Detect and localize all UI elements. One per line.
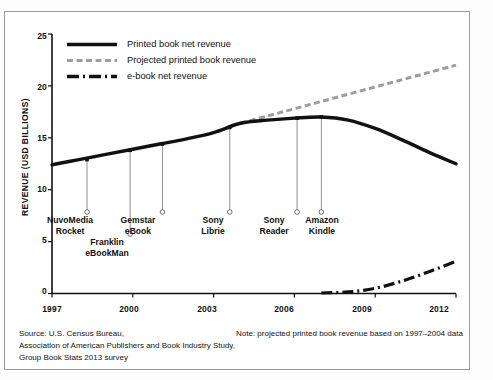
annotation-line1: Amazon <box>305 215 338 225</box>
annotation-amazon-kindle: Amazon Kindle <box>292 215 352 236</box>
annotation-line2: Reader <box>259 226 288 236</box>
annotation-line1: NuvoMedia <box>47 215 93 225</box>
annotation-nuvomedia-rocket: NuvoMedia Rocket <box>32 215 108 236</box>
annotation-line2: Kindle <box>309 226 335 236</box>
annotation-line2: Librie <box>201 226 224 236</box>
plot-area <box>5 12 471 371</box>
source-line-3: Group Book Stats 2013 survey <box>19 352 128 364</box>
annotation-line2: eBook <box>125 226 151 236</box>
legend-label-ebook: e-book net revenue <box>127 71 207 81</box>
series-line-printed <box>52 117 456 165</box>
annotation-line1: Franklin <box>90 237 123 247</box>
legend-swatches <box>67 45 117 77</box>
annotation-gemstar-ebook: Gemstar eBook <box>100 215 176 236</box>
source-line-2: Association of American Publishers and B… <box>19 340 235 352</box>
source-line-1: Source: U.S. Census Bureau, <box>19 328 124 340</box>
annotation-franklin-ebookman: Franklin eBookMan <box>69 237 145 258</box>
annotation-line1: Gemstar <box>121 215 156 225</box>
legend-label-projected: Projected printed book revenue <box>127 55 256 65</box>
annotation-line2: Rocket <box>56 226 85 236</box>
series-line-projected <box>241 65 456 123</box>
annotation-sony-librie: Sony Librie <box>175 215 251 236</box>
annotation-line1: Sony <box>263 215 284 225</box>
projection-note: Note: projected printed book revenue bas… <box>236 328 463 340</box>
annotation-line2: eBookMan <box>85 248 128 258</box>
series-line-ebook <box>321 261 456 293</box>
annotation-line1: Sony <box>202 215 223 225</box>
chart-figure: REVENUE (USD BILLIONS) 25 20 15 10 5 0 1… <box>4 11 470 370</box>
legend-label-printed: Printed book net revenue <box>127 39 231 49</box>
